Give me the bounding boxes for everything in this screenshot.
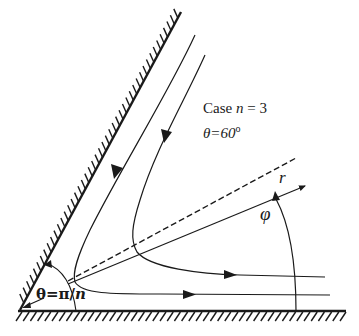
wedge-angle-label: θ=π/n [36,285,86,303]
angle-value: θ=60 [203,125,236,141]
inclined-wall [20,9,181,310]
wedge-angle-prefix: θ=π/ [36,285,75,303]
case-label-prefix: Case [203,100,236,116]
degree-symbol: o [236,123,241,134]
streamline-outer-arrow-right [224,270,237,279]
phi-arc-arrowhead [272,191,280,201]
r-axis-label: r [279,168,286,188]
bottom-wall [16,311,346,321]
case-label: Case n = 3 [203,100,267,117]
wedge-angle-variable: n [75,285,86,303]
angle-label: θ=60o [203,123,241,142]
bottom-wall-hatching [16,312,346,321]
streamline-outer-arrow-down [161,129,172,143]
phi-label: φ [260,203,271,225]
case-equals: = 3 [243,100,266,116]
streamline-outer [133,55,325,277]
inclined-wall-hatching [20,9,178,303]
r-axis [68,186,305,284]
streamline-inner-arrow-right [183,290,196,299]
